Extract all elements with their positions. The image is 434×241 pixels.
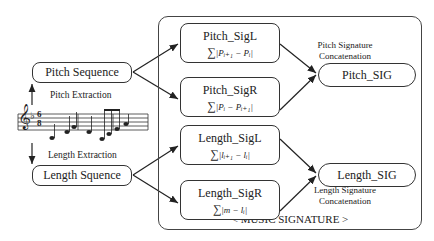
length-extraction-label: Length Extraction: [48, 150, 117, 161]
time-signature-bottom: 8: [37, 119, 42, 128]
pitch-sigr-title: Pitch_SigR: [181, 83, 279, 98]
pitch-sigr-box: Pitch_SigR ∑|Pᵢ − Pᵢ₊₁|: [180, 77, 280, 117]
pitch-sigl-title: Pitch_SigL: [181, 29, 279, 44]
length-concatenation-label: Length Signature Concatenation: [300, 185, 390, 207]
length-sigr-formula: ∑|m − lᵢ|: [181, 202, 279, 217]
pitch-sequence-box: Pitch Sequence: [32, 62, 132, 83]
length-sig-box: Length_SIG: [318, 163, 416, 187]
length-sequence-box: Length Squence: [32, 165, 132, 186]
key-signature: ♭: [30, 110, 35, 121]
length-sigr-box: Length_SigR ∑|m − lᵢ|: [180, 180, 280, 220]
pitch-sigl-formula: ∑|Pᵢ₊₁ − Pᵢ|: [181, 45, 279, 60]
pitch-concatenation-label: Pitch Signature Concatenation: [300, 40, 390, 62]
length-sequence-label: Length Squence: [43, 168, 121, 183]
length-sigl-box: Length_SigL ∑|lᵢ₊₁ − lᵢ|: [180, 125, 280, 165]
pitch-extraction-label: Pitch Extraction: [50, 90, 111, 101]
length-sigl-formula: ∑|lᵢ₊₁ − lᵢ|: [181, 147, 279, 162]
pitch-sig-box: Pitch_SIG: [318, 63, 416, 87]
pitch-sigl-box: Pitch_SigL ∑|Pᵢ₊₁ − Pᵢ|: [180, 23, 280, 63]
length-sigl-title: Length_SigL: [181, 131, 279, 146]
length-sig-label: Length_SIG: [337, 168, 396, 183]
pitch-sigr-formula: ∑|Pᵢ − Pᵢ₊₁|: [181, 99, 279, 114]
length-sigr-title: Length_SigR: [181, 186, 279, 201]
pitch-sig-label: Pitch_SIG: [342, 68, 392, 83]
pitch-sequence-label: Pitch Sequence: [45, 65, 119, 80]
